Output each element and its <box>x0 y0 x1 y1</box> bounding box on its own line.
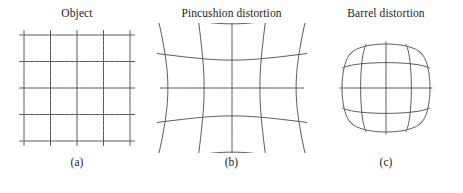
figure-row: Object (a) Pincushion distortion (b) Bar… <box>0 0 463 193</box>
panel-object: Object (a) <box>0 0 154 193</box>
grid-svg-pincushion <box>155 23 309 153</box>
panel-title: Barrel distortion <box>347 8 424 20</box>
grid-pincushion <box>155 23 309 153</box>
panel-caption: (b) <box>225 157 238 169</box>
grid-svg-barrel <box>309 23 463 153</box>
panel-pincushion: Pincushion distortion (b) <box>155 0 309 193</box>
grid-svg-object <box>0 23 154 153</box>
grid-barrel <box>309 23 463 153</box>
panel-title: Object <box>61 8 92 20</box>
panel-title: Pincushion distortion <box>181 8 281 20</box>
panel-caption: (a) <box>71 157 84 169</box>
panel-caption: (c) <box>380 157 393 169</box>
panel-barrel: Barrel distortion (c) <box>309 0 463 193</box>
grid-object <box>0 23 154 153</box>
